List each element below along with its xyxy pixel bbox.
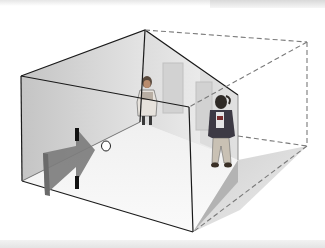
- ames-room-diagram: [0, 0, 325, 248]
- peephole-icon: [102, 141, 111, 151]
